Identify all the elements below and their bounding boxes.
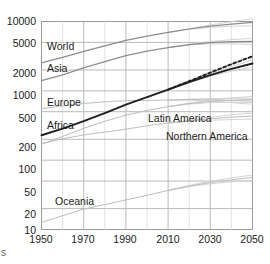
y-tick-label: 2000: [0, 68, 36, 79]
y-tick-label: 100: [0, 164, 36, 175]
chart-figure: 10000 5000 2000 1000 500 200 100 50 20 1…: [0, 0, 270, 264]
y-tick-label: 200: [0, 142, 36, 153]
x-tick-label: 2010: [148, 233, 188, 245]
y-tick-label: 20: [0, 209, 36, 220]
y-tick-label: 50: [0, 187, 36, 198]
series-label-northern-america: Northern America: [166, 131, 248, 142]
series-label-latin-america: Latin America: [148, 113, 212, 124]
series-label-oceania: Oceania: [55, 196, 94, 207]
series-label-africa: Africa: [47, 120, 74, 131]
cropped-text-fragment: s: [1, 247, 6, 258]
x-tick-label: 1970: [63, 233, 103, 245]
y-tick-label: 10000: [0, 16, 36, 27]
y-tick-label: 1000: [0, 90, 36, 101]
series-label-europe: Europe: [47, 97, 81, 108]
y-tick-label: 5000: [0, 38, 36, 49]
series-label-world: World: [47, 41, 74, 52]
y-tick-label: 500: [0, 113, 36, 124]
x-tick-label: 1950: [21, 233, 61, 245]
x-tick-label: 2050: [232, 233, 270, 245]
x-tick-label: 1990: [105, 233, 145, 245]
x-tick-label: 2030: [190, 233, 230, 245]
series-label-asia: Asia: [47, 63, 67, 74]
